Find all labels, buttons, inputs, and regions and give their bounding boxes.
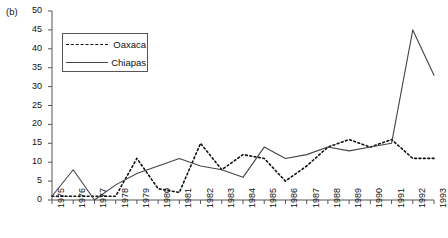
- x-tick-label: 1979: [141, 188, 151, 208]
- legend-entry-oaxaca: Oaxaca: [63, 35, 149, 54]
- x-tick-label: 1993: [438, 188, 448, 208]
- x-tick-label: 1980: [162, 188, 172, 208]
- dashed-line-swatch-icon: [66, 40, 108, 50]
- x-tick-label: 1987: [311, 188, 321, 208]
- y-tick-label: 40: [22, 43, 42, 53]
- y-tick-label: 20: [22, 118, 42, 128]
- x-tick-label: 1981: [183, 188, 193, 208]
- x-tick-label: 1975: [56, 188, 66, 208]
- x-tick-label: 1983: [226, 188, 236, 208]
- y-tick-label: 25: [22, 100, 42, 110]
- legend-label-oaxaca: Oaxaca: [108, 39, 149, 50]
- y-tick-label: 5: [22, 175, 42, 185]
- x-tick-label: 1977: [98, 188, 108, 208]
- y-tick-label: 30: [22, 81, 42, 91]
- legend-entry-chiapas: Chiapas: [63, 53, 149, 72]
- solid-line-swatch-icon: [66, 58, 108, 68]
- x-tick-label: 1986: [289, 188, 299, 208]
- x-tick-label: 1989: [353, 188, 363, 208]
- chart-legend: Oaxaca Chiapas: [62, 33, 148, 72]
- y-tick-marks: [48, 11, 52, 200]
- y-tick-label: 45: [22, 24, 42, 34]
- y-tick-label: 0: [22, 194, 42, 204]
- x-tick-label: 1976: [77, 188, 87, 208]
- y-tick-label: 10: [22, 156, 42, 166]
- x-tick-label: 1991: [396, 188, 406, 208]
- x-tick-label: 1984: [247, 188, 257, 208]
- x-tick-label: 1978: [120, 188, 130, 208]
- x-tick-label: 1985: [268, 188, 278, 208]
- chart-panel: (b) 05101520253035404550 197519761977197…: [0, 0, 448, 238]
- y-tick-label: 50: [22, 5, 42, 15]
- y-tick-label: 35: [22, 62, 42, 72]
- x-tick-label: 1992: [417, 188, 427, 208]
- y-tick-label: 15: [22, 137, 42, 147]
- x-tick-label: 1988: [332, 188, 342, 208]
- legend-label-chiapas: Chiapas: [108, 57, 149, 68]
- x-tick-label: 1990: [374, 188, 384, 208]
- x-tick-label: 1982: [205, 188, 215, 208]
